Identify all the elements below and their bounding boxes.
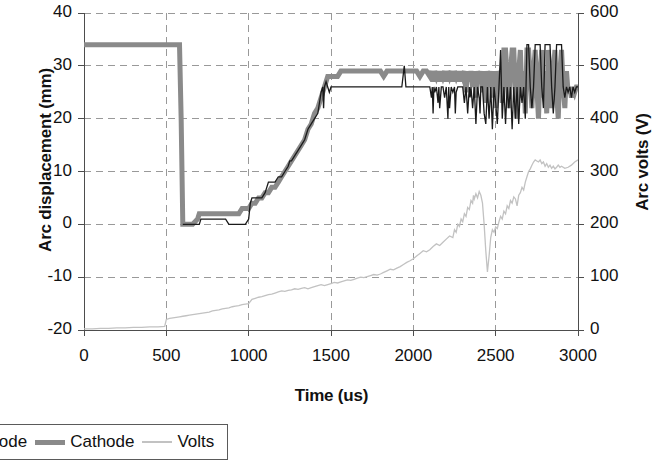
legend-line-icon [142, 441, 172, 443]
chart-legend: AnodeCathodeVolts [0, 424, 228, 460]
y-axis-right-tick-label: 100 [590, 266, 650, 286]
x-axis-tick-label: 3000 [543, 346, 613, 366]
chart-figure: Arc displacement (mm) Arc volts (V) Time… [0, 0, 657, 467]
y-axis-right-tick-label: 600 [590, 2, 650, 22]
y-axis-left-tick-label: 40 [12, 2, 72, 22]
y-axis-left-tick-label: -20 [12, 319, 72, 339]
y-axis-right-tick-label: 0 [590, 319, 650, 339]
y-axis-right-tick-label: 400 [590, 108, 650, 128]
y-axis-left-tick-label: -10 [12, 266, 72, 286]
legend-item-anode: Anode [0, 432, 27, 452]
y-axis-left-tick-label: 0 [12, 213, 72, 233]
legend-item-cathode: Cathode [35, 432, 134, 452]
y-axis-right-tick-label: 200 [590, 213, 650, 233]
legend-item-label: Cathode [70, 432, 134, 452]
legend-line-icon [35, 440, 65, 445]
y-axis-right-tick-label: 300 [590, 161, 650, 181]
x-axis-tick-label: 1500 [296, 346, 366, 366]
x-axis-tick-label: 2000 [378, 346, 448, 366]
legend-item-label: Volts [177, 432, 214, 452]
x-axis-title: Time (us) [84, 386, 579, 406]
y-axis-right-tick-label: 500 [590, 55, 650, 75]
x-axis-tick-label: 0 [49, 346, 119, 366]
y-axis-left-tick-label: 20 [12, 108, 72, 128]
y-axis-left-tick-label: 30 [12, 55, 72, 75]
legend-item-volts: Volts [142, 432, 214, 452]
y-axis-left-tick-label: 10 [12, 161, 72, 181]
x-axis-tick-label: 2500 [461, 346, 531, 366]
legend-item-label: Anode [0, 432, 27, 452]
x-axis-tick-label: 1000 [214, 346, 284, 366]
x-axis-tick-label: 500 [131, 346, 201, 366]
